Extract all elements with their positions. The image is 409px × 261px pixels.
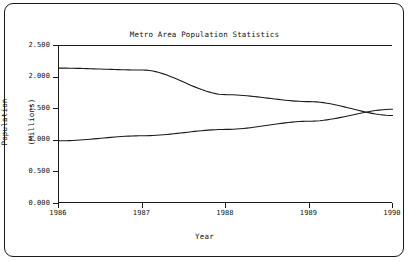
x-tick-mark [225, 203, 226, 208]
x-tick-label: 1987 [122, 210, 162, 217]
x-tick-mark [309, 203, 310, 208]
x-axis-title: Year [0, 232, 409, 241]
y-tick-label: 1.500 [6, 105, 50, 112]
y-tick-label: 0.000 [6, 200, 50, 207]
x-tick-mark [392, 203, 393, 208]
x-tick-label: 1986 [38, 210, 78, 217]
x-tick-mark [142, 203, 143, 208]
y-tick-label: 1.000 [6, 136, 50, 143]
y-tick-label: 0.500 [6, 168, 50, 175]
y-tick-label: 2.500 [6, 42, 50, 49]
line-series-steeltown [59, 68, 393, 115]
line-series-techtown [59, 109, 393, 141]
series-lines [59, 46, 393, 204]
chart-title-line-1: Metro Area Population Statistics [0, 30, 409, 41]
x-tick-label: 1990 [372, 210, 409, 217]
chart-window: Metro Area Population Statistics For Ste… [0, 0, 409, 261]
x-tick-mark [58, 203, 59, 208]
x-tick-label: 1988 [205, 210, 245, 217]
plot-area [58, 45, 392, 203]
x-tick-label: 1989 [289, 210, 329, 217]
y-tick-label: 2.000 [6, 73, 50, 80]
